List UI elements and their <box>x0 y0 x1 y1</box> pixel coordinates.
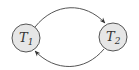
node-t2: T2 <box>99 23 127 51</box>
state-diagram: T1 T2 <box>0 0 139 70</box>
edge-t2-to-t1 <box>35 49 104 67</box>
node-t1: T1 <box>12 24 40 52</box>
edge-t1-to-t2 <box>35 8 105 27</box>
